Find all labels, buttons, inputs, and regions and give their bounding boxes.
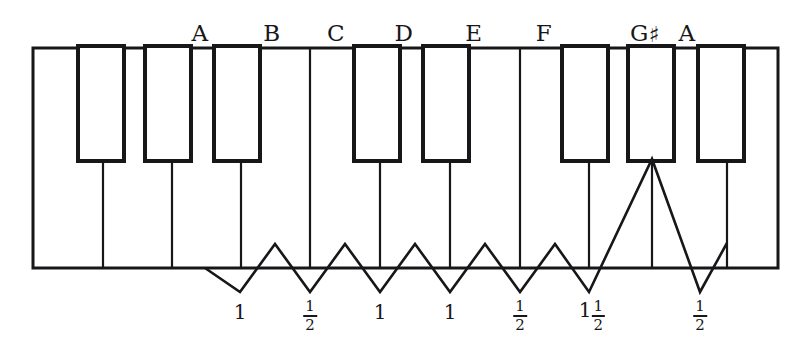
black-key <box>698 46 744 161</box>
note-label-f: F <box>536 22 552 45</box>
fraction-numerator: 1 <box>513 299 527 314</box>
fraction-denominator: 2 <box>693 318 707 333</box>
black-key <box>628 46 674 161</box>
fraction-one-half: 1 2 <box>513 299 527 333</box>
note-label-text: D <box>395 20 414 46</box>
note-label-text: E <box>465 20 482 46</box>
fraction-denominator: 2 <box>513 318 527 333</box>
fraction-denominator: 2 <box>592 318 606 333</box>
note-label-text: F <box>536 20 552 46</box>
black-key <box>354 46 400 161</box>
interval-label-half-3: 1 2 <box>693 299 707 333</box>
black-key <box>423 46 469 161</box>
interval-label-2: 1 <box>374 301 387 323</box>
fraction-numerator: 1 <box>303 299 317 314</box>
note-label-a-high: A <box>678 22 695 45</box>
note-label-text: A <box>191 20 208 46</box>
fraction-one-half: 1 2 <box>303 299 317 333</box>
sharp-icon: ♯ <box>649 22 660 47</box>
interval-label-half-2: 1 2 <box>513 299 527 333</box>
black-key <box>78 46 124 161</box>
interval-label-3: 1 <box>444 301 457 323</box>
note-label-text: A <box>678 20 695 46</box>
interval-whole: 1 <box>234 301 247 323</box>
interval-label-1: 1 <box>234 301 247 323</box>
interval-whole: 1 <box>579 299 592 321</box>
interval-label-one-and-half: 1 1 2 <box>579 299 605 333</box>
black-key <box>214 46 260 161</box>
black-key <box>145 46 191 161</box>
keyboard-diagram <box>0 0 809 342</box>
interval-whole: 1 <box>374 301 387 323</box>
note-label-c: C <box>327 22 345 45</box>
fraction-one-half: 1 2 <box>592 299 606 333</box>
note-label-a: A <box>191 22 208 45</box>
fraction-numerator: 1 <box>693 299 707 314</box>
figure-canvas: A B C D E F G♯ A 1 1 2 1 1 1 2 1 1 2 <box>0 0 809 342</box>
note-label-d: D <box>395 22 414 45</box>
fraction-numerator: 1 <box>592 299 606 314</box>
note-label-text: C <box>327 20 345 46</box>
note-label-b: B <box>263 22 280 45</box>
note-label-text: B <box>263 20 280 46</box>
note-label-g-sharp: G♯ <box>630 22 660 45</box>
fraction-denominator: 2 <box>303 318 317 333</box>
fraction-one-half: 1 2 <box>693 299 707 333</box>
note-label-e: E <box>465 22 482 45</box>
note-label-text: G <box>630 20 649 46</box>
black-key <box>562 46 608 161</box>
interval-whole: 1 <box>444 301 457 323</box>
interval-label-half-1: 1 2 <box>303 299 317 333</box>
